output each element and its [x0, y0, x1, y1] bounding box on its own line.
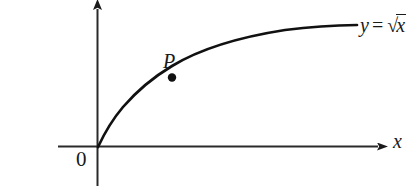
origin-label: 0 — [76, 149, 87, 170]
math-figure: 0 P x y=√x — [0, 0, 417, 196]
sqrt-curve — [98, 25, 357, 147]
radicand: x — [396, 14, 406, 35]
point-p-label: P — [163, 51, 175, 71]
equation-lhs: y — [360, 14, 369, 36]
figure-canvas — [0, 0, 417, 196]
curve-equation-label: y=√x — [360, 14, 406, 35]
square-root-expression: √x — [386, 14, 406, 35]
x-axis-label: x — [393, 131, 402, 151]
point-p-marker — [168, 73, 176, 81]
equation-equals-sign: = — [369, 14, 386, 36]
